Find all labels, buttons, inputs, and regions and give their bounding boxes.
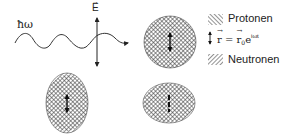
e-field-label: → E [92,3,99,13]
neutronen-label: Neutronen [228,54,279,65]
exponent: iωt [251,33,259,39]
protonen-swatch-icon [208,14,223,25]
protonen-label: Protonen [228,13,273,24]
r-vector: r [217,35,222,45]
oblate-nucleus [143,83,195,123]
wave-icon [15,33,128,48]
neutronen-swatch-icon [208,54,223,65]
vector-arrow-symbol: → [92,0,99,5]
photon-wave [15,33,128,48]
r0-vector: r [237,35,242,45]
oscillation-formula: r = r0eiωt [217,33,259,46]
equals-sign: = [222,34,237,45]
prolate-nucleus [46,73,88,133]
spherical-nucleus [144,16,196,68]
photon-energy-label: ħω [17,19,33,30]
